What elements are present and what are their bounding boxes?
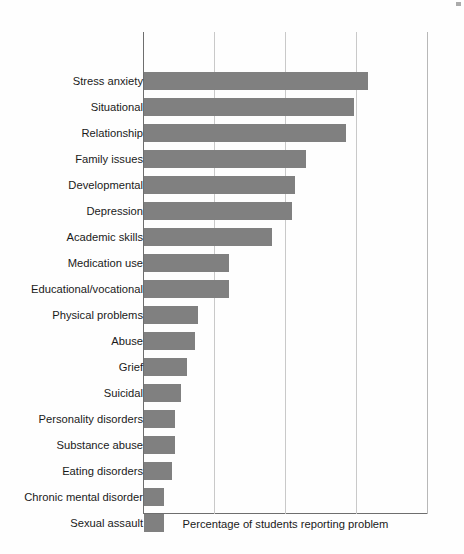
- bar-category-label: Eating disorders: [62, 462, 143, 480]
- scan-artifact-speck: [456, 2, 461, 6]
- bar-row: Abuse: [0, 332, 464, 350]
- bar: [144, 280, 229, 298]
- bar-row: Physical problems: [0, 306, 464, 324]
- bar-category-label: Developmental: [68, 176, 143, 194]
- bar-row: Eating disorders: [0, 462, 464, 480]
- bar: [144, 254, 229, 272]
- bar-row: Chronic mental disorder: [0, 488, 464, 506]
- bar-category-label: Substance abuse: [57, 436, 143, 454]
- bar: [144, 150, 306, 168]
- bar-row: Relationship: [0, 124, 464, 142]
- bar-row: Medication use: [0, 254, 464, 272]
- bar-row: Developmental: [0, 176, 464, 194]
- bar-row: Personality disorders: [0, 410, 464, 428]
- bar: [144, 488, 164, 506]
- bar-row: Suicidal: [0, 384, 464, 402]
- bar: [144, 306, 198, 324]
- bar: [144, 358, 187, 376]
- bar-category-label: Family issues: [75, 150, 143, 168]
- bar-category-label: Personality disorders: [39, 410, 143, 428]
- bar-row: Grief: [0, 358, 464, 376]
- bar-category-label: Depression: [86, 202, 143, 220]
- bar-category-label: Situational: [91, 98, 143, 116]
- bar-category-label: Grief: [119, 358, 143, 376]
- bar-row: Stress anxiety: [0, 72, 464, 90]
- bar-category-label: Medication use: [68, 254, 143, 272]
- bar: [144, 228, 272, 246]
- bar: [144, 384, 181, 402]
- bar: [144, 202, 292, 220]
- bar-category-label: Abuse: [111, 332, 143, 350]
- bar: [144, 72, 368, 90]
- bar-category-label: Suicidal: [104, 384, 143, 402]
- bar-row: Family issues: [0, 150, 464, 168]
- bar-row: Academic skills: [0, 228, 464, 246]
- bar-category-label: Relationship: [81, 124, 143, 142]
- bar-category-label: Academic skills: [67, 228, 143, 246]
- bar: [144, 332, 195, 350]
- bar-category-label: Chronic mental disorder: [24, 488, 143, 506]
- bar-category-label: Sexual assault: [70, 514, 143, 532]
- x-axis-caption: Percentage of students reporting problem: [143, 518, 428, 530]
- bar: [144, 124, 346, 142]
- bar: [144, 436, 175, 454]
- bar-category-label: Stress anxiety: [73, 72, 143, 90]
- bar: [144, 176, 295, 194]
- bar-category-label: Physical problems: [52, 306, 143, 324]
- bar-row: Educational/vocational: [0, 280, 464, 298]
- bar-row: Situational: [0, 98, 464, 116]
- bar: [144, 98, 354, 116]
- bar-chart: Stress anxietySituationalRelationshipFam…: [0, 0, 464, 554]
- bar: [144, 410, 175, 428]
- bar-row: Depression: [0, 202, 464, 220]
- bar: [144, 462, 172, 480]
- bar-row: Substance abuse: [0, 436, 464, 454]
- bar-category-label: Educational/vocational: [31, 280, 143, 298]
